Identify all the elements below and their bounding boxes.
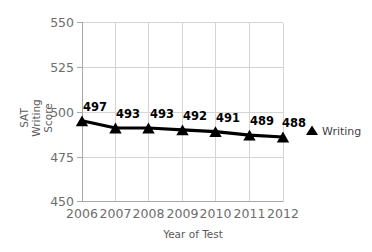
x-axis-title: Year of Test xyxy=(162,228,223,240)
y-axis-title-line-2: Writing xyxy=(30,99,42,137)
ytick-label-550: 550 xyxy=(50,15,74,30)
xtick-label-2010: 2010 xyxy=(200,206,232,221)
xtick-label-2008: 2008 xyxy=(133,206,165,221)
xtick-label-2012: 2012 xyxy=(267,206,299,221)
xtick-label-2011: 2011 xyxy=(234,206,266,221)
point-label-2011: 489 xyxy=(250,114,274,128)
legend-label-writing: Writing xyxy=(322,125,361,138)
xtick-label-2009: 2009 xyxy=(167,206,199,221)
point-label-2008: 493 xyxy=(150,107,174,121)
ytick-label-525: 525 xyxy=(50,60,74,75)
xtick-label-2007: 2007 xyxy=(100,206,132,221)
xtick-label-2006: 2006 xyxy=(66,206,98,221)
x-axis-tick-labels: 2006 2007 2008 2009 2010 2011 2012 xyxy=(66,206,299,221)
point-label-2009: 492 xyxy=(183,109,207,123)
point-label-2007: 493 xyxy=(116,107,140,121)
y-axis-title-line-1: SAT xyxy=(18,108,30,128)
sat-writing-score-line-chart: 550 525 500 475 450 2006 2007 2008 2009 … xyxy=(0,0,372,252)
y-axis-title-line-3: Score xyxy=(42,103,54,132)
ytick-label-475: 475 xyxy=(50,150,74,165)
point-label-2012: 488 xyxy=(282,116,306,130)
point-label-2010: 491 xyxy=(216,111,240,125)
point-label-2006: 497 xyxy=(83,100,107,114)
chart-container: 550 525 500 475 450 2006 2007 2008 2009 … xyxy=(0,0,372,252)
